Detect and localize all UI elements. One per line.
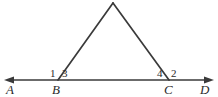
angle-label-1: 1 bbox=[50, 68, 56, 79]
point-label-C: C bbox=[164, 83, 173, 96]
geometry-figure: 1 3 4 2 A B C D bbox=[0, 0, 218, 97]
point-label-A: A bbox=[6, 83, 14, 96]
angle-label-2: 2 bbox=[171, 68, 177, 79]
triangle-group bbox=[58, 3, 169, 80]
baseline-group bbox=[4, 77, 214, 84]
point-label-D: D bbox=[200, 83, 209, 96]
point-label-B: B bbox=[52, 83, 60, 96]
angle-label-4: 4 bbox=[157, 68, 163, 79]
angle-label-3: 3 bbox=[62, 68, 68, 79]
geometry-diagram-svg bbox=[0, 0, 218, 97]
